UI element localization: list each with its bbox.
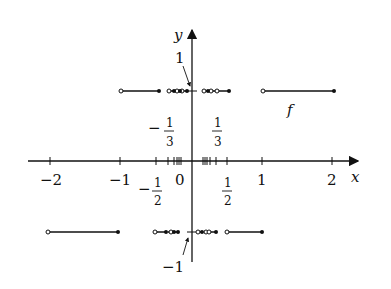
minus-half-den: 2 [154,194,162,208]
x-label-zero: 0 [175,171,185,189]
x-label-one: 1 [257,171,267,189]
third-num: 1 [214,116,222,130]
y-axis-label: y [173,26,183,44]
chart-canvas: y 1 f − 1 3 1 3 −2 −1 0 1 2 x − 1 2 1 2 … [0,0,391,289]
pointer-arrow-one [183,66,190,86]
minus-half-num: 1 [154,176,162,190]
pointer-arrow-neg-one [183,238,188,255]
x-label-neg-one: −1 [109,171,131,189]
minus-third-sign: − [148,119,161,137]
y-label-neg-one: −1 [162,258,184,276]
minus-third-num: 1 [166,116,174,130]
y-label-one: 1 [175,49,185,67]
x-label-neg-two: −2 [40,171,62,189]
half-num: 1 [224,176,232,190]
x-label-two: 2 [327,171,337,189]
minus-half-sign: − [138,180,151,198]
function-label: f [286,101,295,119]
minus-third-den: 3 [166,135,174,149]
third-den: 3 [214,135,222,149]
half-den: 2 [224,194,232,208]
x-axis-label: x [351,168,360,186]
